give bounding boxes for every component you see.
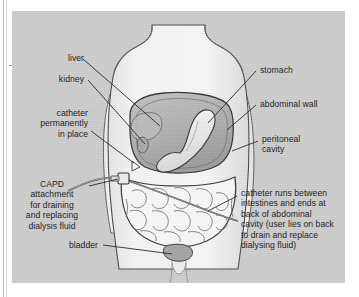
label-liver: liver: [34, 53, 84, 63]
label-catheter-permanently-in-place: catheter permanently in place: [16, 108, 88, 139]
diagram-panel: liver kidney catheter permanently in pla…: [12, 11, 345, 283]
label-capd-attachment: CAPD attachment for draining and replaci…: [14, 179, 90, 231]
label-abdominal-wall: abdominal wall: [260, 99, 345, 109]
label-kidney: kidney: [26, 74, 84, 84]
label-catheter-note: catheter runs between intestines and end…: [241, 188, 345, 250]
page-gutter-rule-inner: [6, 0, 7, 297]
figure-container: liver kidney catheter permanently in pla…: [0, 0, 359, 297]
kidney-organ: [137, 137, 148, 153]
label-stomach: stomach: [260, 65, 340, 75]
label-bladder: bladder: [40, 240, 98, 250]
label-peritoneal-cavity: peritoneal cavity: [262, 134, 338, 155]
page-gutter-rule-outer: [3, 0, 4, 297]
bladder-organ: [163, 244, 192, 261]
catheter-connector: [118, 173, 129, 184]
